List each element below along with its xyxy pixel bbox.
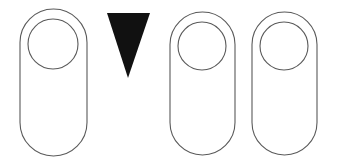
pill-with-circle-2 [170, 12, 235, 155]
pill-inner-circle-3 [260, 22, 308, 70]
pill-with-circle-1 [20, 9, 87, 156]
abstract-shapes-figure [0, 0, 339, 166]
pill-with-circle-3 [252, 12, 317, 155]
pill-inner-circle-2 [178, 22, 226, 70]
pill-inner-circle-1 [28, 19, 78, 69]
figure-canvas [0, 0, 339, 166]
